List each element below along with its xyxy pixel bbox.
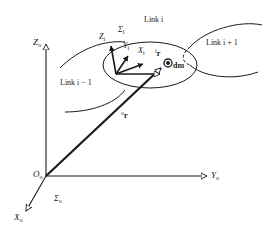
z0-sub: o (38, 42, 41, 48)
link-frame-sigma-label: Σi (118, 26, 124, 35)
y0-axis-label: Yo (211, 171, 219, 181)
zi-axis-label: Zi (99, 33, 105, 42)
x0-axis (26, 176, 46, 211)
local-r-name: r (157, 49, 161, 58)
sigmai-sub: i (123, 29, 125, 35)
global-r-name: r (124, 111, 128, 120)
local-r-label: ir (155, 48, 160, 58)
link-i-minus-1-outline-bottom (65, 90, 125, 112)
link-i-label: Link i (144, 16, 163, 24)
global-r-label: or (121, 110, 128, 120)
x0-axis-label: Xo (14, 213, 23, 223)
y0-sub: o (216, 175, 219, 181)
yi-axis-label: Yi (123, 42, 129, 51)
link-i-minus-1-label: Link i − 1 (60, 79, 92, 87)
link-i-minus-1-outline-top (60, 42, 125, 68)
dm-label: dm (173, 62, 184, 70)
z0-axis-label: Zo (33, 38, 41, 48)
base-frame-sigma-label: Σo (54, 195, 62, 204)
link-i-plus-1-outline (190, 24, 262, 77)
zi-sub: i (103, 36, 105, 42)
xi-sub: i (143, 50, 145, 56)
sigma0-sub: o (59, 198, 62, 204)
link-i-plus-1-label: Link i + 1 (206, 39, 238, 47)
origin-label: Oo (33, 170, 43, 180)
origin-sub: o (40, 174, 43, 180)
x0-sub: o (20, 217, 23, 223)
yi-sub: i (127, 45, 129, 51)
diagram-canvas (0, 0, 280, 232)
xi-axis-label: Xi (138, 47, 145, 56)
